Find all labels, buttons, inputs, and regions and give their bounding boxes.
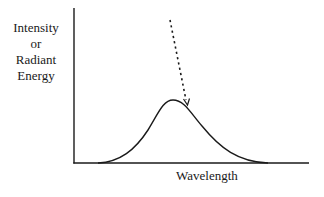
dotted-arrow-line	[170, 20, 186, 100]
intensity-curve	[98, 100, 268, 163]
chart-canvas	[0, 0, 324, 197]
x-axis-label: Wavelength	[176, 168, 238, 184]
